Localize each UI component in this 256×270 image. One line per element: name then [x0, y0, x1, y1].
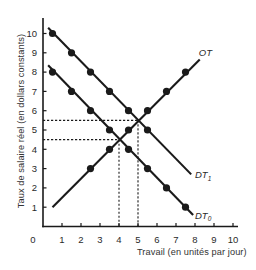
curve-label-subscript: 1 — [208, 175, 212, 182]
data-point — [49, 30, 56, 37]
x-tick-label: 7 — [173, 234, 178, 245]
data-point — [68, 88, 75, 95]
x-tick-label: 9 — [211, 234, 216, 245]
y-tick-label: 10 — [26, 28, 37, 39]
y-tick-label: 4 — [32, 144, 37, 155]
x-tick-label: 6 — [154, 234, 159, 245]
x-tick-label: 5 — [135, 234, 140, 245]
y-axis-label: Taux de salaire réel (en dollars constan… — [16, 34, 26, 208]
y-tick-label: 9 — [32, 47, 37, 58]
curve-label-subscript: 0 — [208, 215, 212, 222]
x-tick-label: 10 — [228, 234, 239, 245]
data-point — [125, 126, 132, 133]
data-point — [144, 126, 151, 133]
x-tick-label: 2 — [78, 234, 83, 245]
x-tick-label: 8 — [192, 234, 197, 245]
y-tick-label: 5 — [32, 124, 37, 135]
data-point — [87, 107, 94, 114]
data-point — [106, 88, 113, 95]
x-axis-label: Travail (en unités par jour) — [137, 247, 247, 257]
y-tick-label: 7 — [32, 86, 37, 97]
y-tick-label: 2 — [32, 182, 37, 193]
ot-line — [53, 60, 200, 208]
curves — [48, 28, 200, 215]
x-tick-label: 1 — [59, 234, 64, 245]
x-tick-label: 3 — [97, 234, 102, 245]
data-point — [182, 204, 189, 211]
curve-label-ot: OT — [199, 47, 213, 58]
x-tick-label: 4 — [116, 234, 121, 245]
data-point — [144, 165, 151, 172]
y-tick-label: 1 — [32, 202, 37, 213]
data-point — [144, 107, 151, 114]
y-tick-label: 6 — [32, 105, 37, 116]
curve-labels: OTDT1DT0 — [195, 47, 213, 223]
dt1-line — [48, 28, 191, 175]
y-tick-label: 8 — [32, 66, 37, 77]
data-point — [49, 69, 56, 76]
data-point — [125, 146, 132, 153]
origin-label: 0 — [30, 234, 35, 245]
data-point — [163, 88, 170, 95]
curve-label-dt0: DT0 — [195, 210, 212, 223]
data-point — [106, 126, 113, 133]
data-point — [106, 146, 113, 153]
labor-market-chart: 12345678910123456789100 OTDT1DT0 — [0, 0, 256, 270]
data-point — [68, 49, 75, 56]
curve-ot — [53, 60, 200, 208]
data-point — [163, 184, 170, 191]
y-tick-label: 3 — [32, 163, 37, 174]
data-point — [87, 165, 94, 172]
curve-label-dt1: DT1 — [195, 169, 212, 182]
data-point — [125, 107, 132, 114]
data-point — [87, 69, 94, 76]
curve-dt1 — [48, 28, 191, 175]
data-point — [182, 69, 189, 76]
